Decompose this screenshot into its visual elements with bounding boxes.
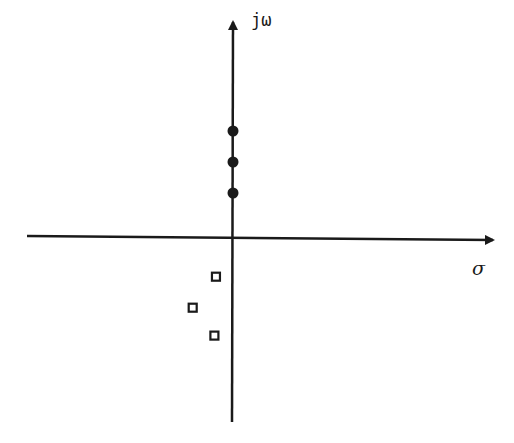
real-axis-label: σ — [472, 257, 486, 279]
imaginary-axis-label: jω — [251, 10, 271, 30]
pole-marker-2 — [228, 157, 239, 168]
zero-marker-3 — [210, 332, 218, 340]
pole-marker-3 — [228, 188, 239, 199]
zero-marker-1 — [212, 273, 220, 281]
s-plane-diagram: jω σ — [0, 0, 514, 443]
imaginary-axis — [232, 22, 233, 422]
pole-marker-1 — [228, 126, 239, 137]
markers-group — [189, 126, 239, 340]
zero-marker-2 — [189, 304, 197, 312]
real-axis — [27, 236, 493, 240]
